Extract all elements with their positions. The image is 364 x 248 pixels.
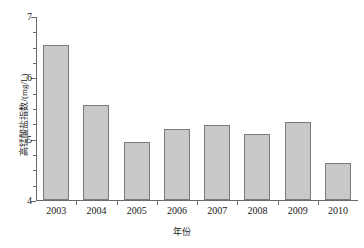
y-tick-minor — [33, 94, 36, 95]
bar — [285, 122, 311, 201]
bar — [244, 134, 270, 200]
bar-chart: 高锰酸盐指数/(mg/L) 4567 200320042005200620072… — [0, 0, 364, 248]
x-tick-label: 2005 — [127, 206, 147, 216]
y-tick-minor — [33, 48, 36, 49]
y-tick-minor — [33, 186, 36, 187]
x-tick-label: 2008 — [247, 206, 267, 216]
x-tick-label: 2006 — [167, 206, 187, 216]
y-tick-minor — [33, 32, 36, 33]
x-tick-mark — [237, 201, 238, 205]
bar — [43, 45, 69, 200]
y-tick-label: 4 — [27, 196, 32, 206]
x-tick-label: 2004 — [86, 206, 106, 216]
x-tick-mark — [157, 201, 158, 205]
plot-area: 4567 20032004200520062007200820092010 — [36, 17, 358, 201]
x-tick-mark — [76, 201, 77, 205]
y-tick-label: 5 — [27, 135, 32, 145]
y-tick-minor — [33, 170, 36, 171]
x-axis-title: 年份 — [0, 225, 364, 238]
x-tick-label: 2009 — [288, 206, 308, 216]
bar — [124, 142, 150, 200]
x-tick-label: 2010 — [328, 206, 348, 216]
x-tick-label: 2003 — [46, 206, 66, 216]
y-axis-title: 高锰酸盐指数/(mg/L) — [17, 35, 30, 195]
y-tick-minor — [33, 109, 36, 110]
y-axis-line — [36, 17, 37, 201]
x-tick-mark — [278, 201, 279, 205]
x-tick-mark — [117, 201, 118, 205]
y-tick-minor — [33, 155, 36, 156]
y-tick-minor — [33, 124, 36, 125]
bar — [204, 125, 230, 200]
y-tick-label: 6 — [27, 73, 32, 83]
y-tick-label: 7 — [27, 12, 32, 22]
bar — [164, 129, 190, 200]
x-tick-mark — [197, 201, 198, 205]
bar — [325, 163, 351, 200]
x-tick-label: 2007 — [207, 206, 227, 216]
y-tick-minor — [33, 63, 36, 64]
bar — [83, 105, 109, 200]
x-tick-mark — [318, 201, 319, 205]
